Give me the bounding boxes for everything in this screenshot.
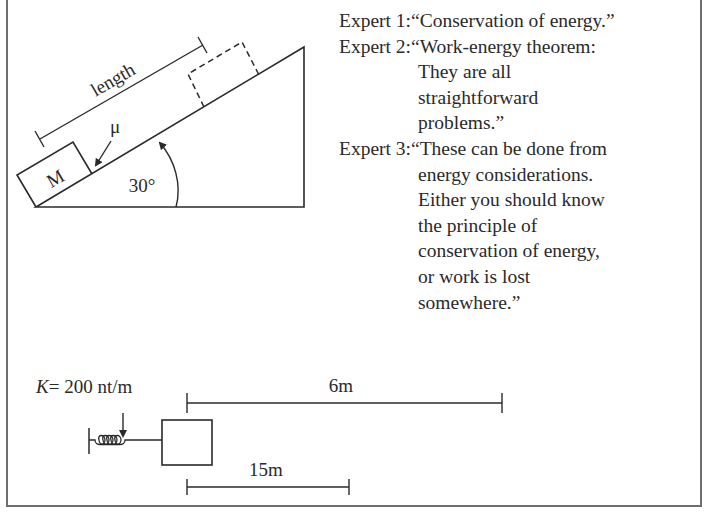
quote-line: somewhere.”: [411, 290, 607, 316]
expert-3-quote: Expert 3: “These can be done from energy…: [339, 136, 699, 315]
spring-icon: [89, 436, 162, 445]
incline-figure: M length μ 30°: [17, 37, 304, 207]
friction-arrow-icon: [96, 141, 111, 165]
spring-constant-label: K= 200 nt/m: [35, 376, 132, 397]
bottom-distance-label: 15m: [249, 459, 283, 480]
angle-label: 30°: [129, 175, 156, 196]
quote-line: or work is lost: [411, 264, 607, 290]
length-label: length: [87, 58, 139, 100]
quote-line: “Conservation of energy.”: [411, 8, 615, 34]
top-distance-dimension: 6m: [187, 375, 502, 413]
length-dimension: length: [35, 37, 207, 147]
expert-label: Expert 3:: [339, 136, 411, 162]
incline-triangle: [36, 47, 304, 207]
expert-1-quote: Expert 1: “Conservation of energy.”: [339, 8, 699, 34]
quote-line: the principle of: [411, 213, 607, 239]
final-position-block: [188, 42, 259, 107]
expert-label: Expert 1:: [339, 8, 411, 34]
mass-block: M: [17, 142, 92, 207]
friction-label: μ: [110, 116, 120, 137]
quote-line: Either you should know: [411, 187, 607, 213]
mass-label: M: [43, 165, 68, 192]
expert-label: Expert 2:: [339, 34, 411, 60]
angle-arc-arrow-icon: [160, 143, 178, 207]
top-distance-label: 6m: [329, 375, 354, 396]
quote-line: energy considerations.: [411, 162, 607, 188]
expert-quotes: Expert 1: “Conservation of energy.” Expe…: [339, 8, 699, 315]
quote-line: straightforward: [411, 85, 596, 111]
quote-line: problems.”: [411, 110, 596, 136]
quote-line: “Work-energy theorem:: [411, 34, 596, 60]
spring-figure: K= 200 nt/m 6m 15m: [35, 375, 502, 495]
quote-line: “These can be done from: [411, 136, 607, 162]
quote-line: conservation of energy,: [411, 238, 607, 264]
quote-line: They are all: [411, 59, 596, 85]
spring-block: [162, 420, 212, 465]
expert-2-quote: Expert 2: “Work-energy theorem: They are…: [339, 34, 699, 136]
